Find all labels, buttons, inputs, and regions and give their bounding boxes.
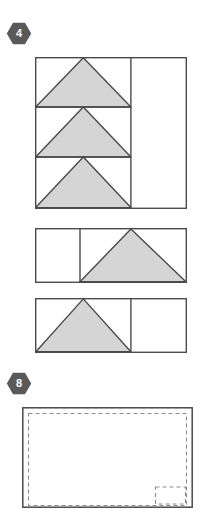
triangle-bottom-left xyxy=(36,157,131,208)
step-badge-4-label: 4 xyxy=(6,22,32,45)
figure-3-rectangle-left-triangle xyxy=(35,298,187,353)
figure-4-outer-border xyxy=(23,408,192,507)
triangle-top-left xyxy=(36,58,131,107)
figure-1-square-three-triangles xyxy=(35,57,187,209)
step-badge-8[interactable]: 8 xyxy=(6,372,32,395)
figure-4-dashed-inset-rectangle xyxy=(22,407,194,509)
triangle-left-cell xyxy=(36,299,131,352)
step-badge-8-label: 8 xyxy=(6,372,32,395)
step-badge-4[interactable]: 4 xyxy=(6,22,32,45)
triangle-middle-left xyxy=(36,107,131,157)
triangle-right-cell xyxy=(80,229,186,282)
figure-2-rectangle-right-triangle xyxy=(35,228,187,283)
